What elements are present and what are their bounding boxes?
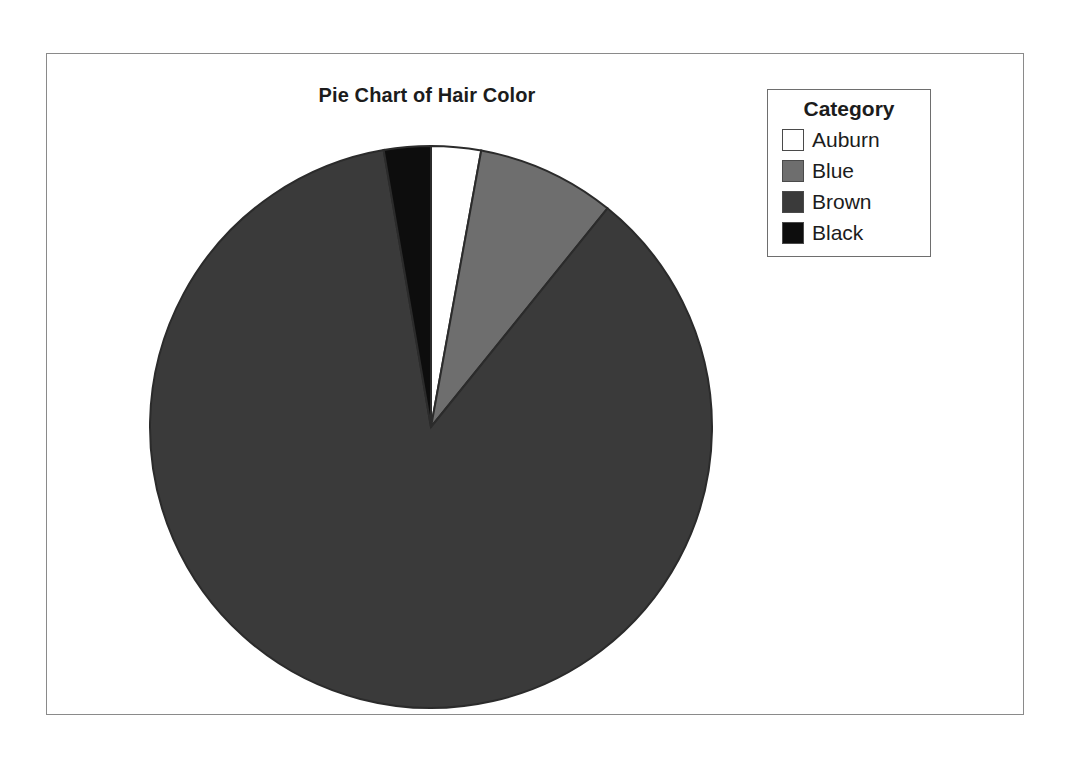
legend-label-black: Black [812, 222, 863, 244]
pie-svg [148, 144, 714, 710]
legend-title: Category [768, 96, 930, 122]
legend-swatch-auburn [782, 129, 804, 151]
legend-label-brown: Brown [812, 191, 872, 213]
legend-item-auburn[interactable]: Auburn [768, 124, 930, 155]
pie-chart [148, 144, 714, 710]
legend: Category Auburn Blue Brown Black [767, 89, 931, 257]
chart-title: Pie Chart of Hair Color [47, 84, 807, 107]
legend-swatch-blue [782, 160, 804, 182]
pie-slices [150, 146, 712, 708]
legend-item-black[interactable]: Black [768, 217, 930, 248]
legend-label-blue: Blue [812, 160, 854, 182]
legend-item-blue[interactable]: Blue [768, 155, 930, 186]
legend-item-brown[interactable]: Brown [768, 186, 930, 217]
legend-label-auburn: Auburn [812, 129, 880, 151]
legend-swatch-black [782, 222, 804, 244]
legend-swatch-brown [782, 191, 804, 213]
chart-frame: Pie Chart of Hair Color Category Auburn … [46, 53, 1024, 715]
